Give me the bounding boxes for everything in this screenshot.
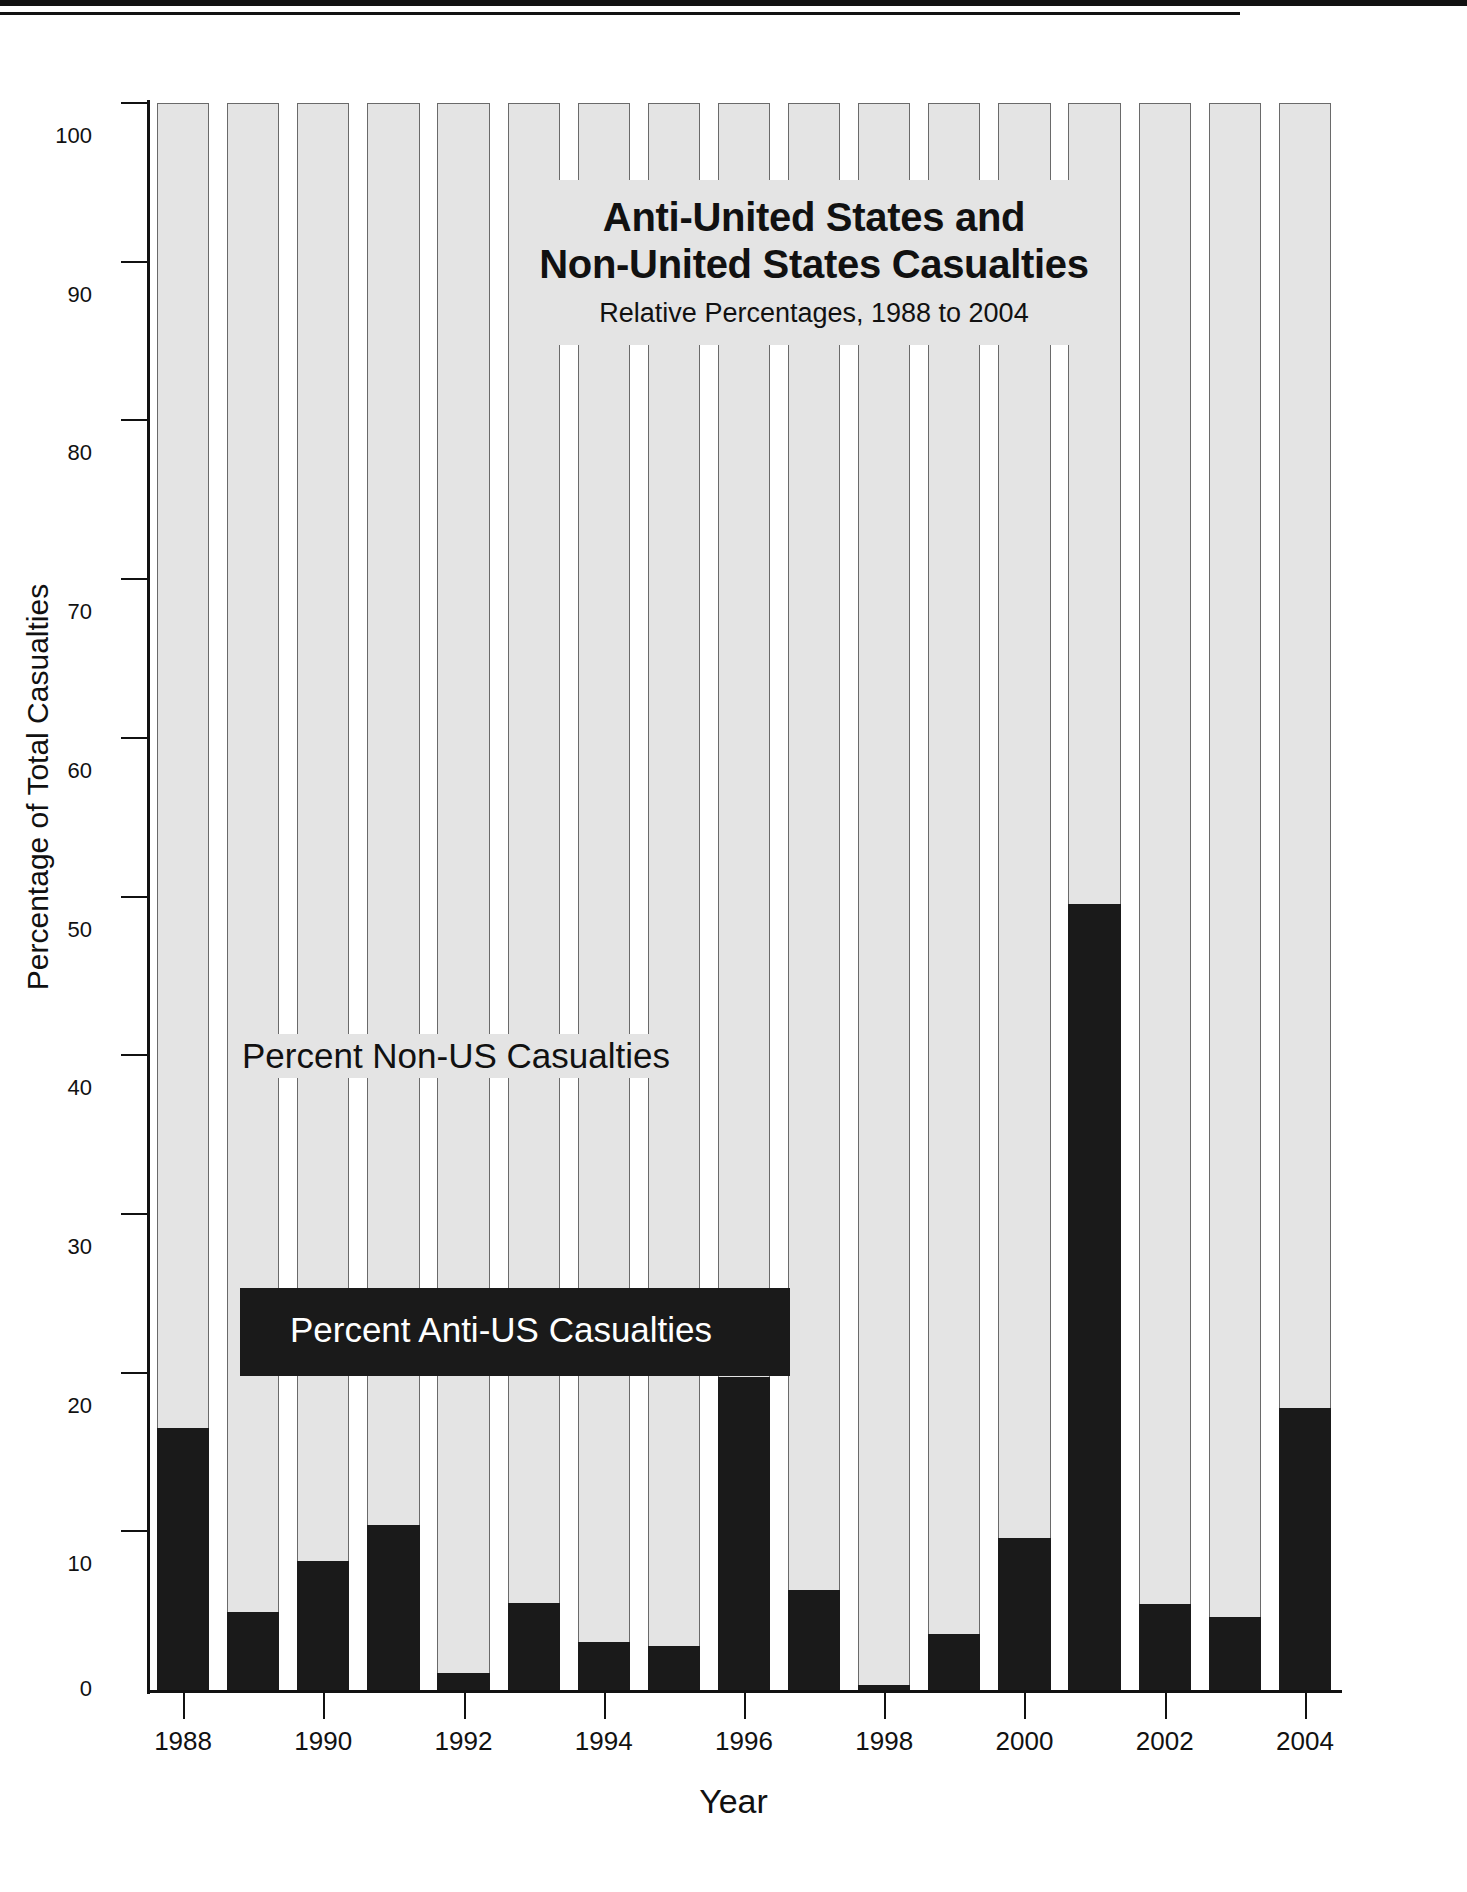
chart-title-line1: Anti-United States and	[520, 194, 1108, 241]
chart-title-line2: Non-United States Casualties	[520, 241, 1108, 288]
x-tick	[884, 1693, 886, 1719]
bar-segment-non-us	[367, 103, 419, 1690]
bar-segment-anti-us	[1139, 1604, 1191, 1690]
bar-segment-anti-us	[1068, 904, 1120, 1690]
bar-segment-non-us	[437, 103, 489, 1690]
chart-title: Anti-United States and Non-United States…	[520, 180, 1108, 288]
bar-segment-anti-us	[648, 1646, 700, 1690]
bar-column	[1139, 103, 1191, 1690]
bar-column	[297, 103, 349, 1690]
x-tick-label: 1996	[684, 1726, 804, 1757]
x-tick-label: 2002	[1105, 1726, 1225, 1757]
y-tick-label: 90	[22, 282, 92, 308]
y-tick-label: 10	[22, 1551, 92, 1577]
bar-segment-anti-us	[157, 1428, 209, 1690]
bar-segment-anti-us	[508, 1603, 560, 1690]
x-tick-label: 1994	[544, 1726, 664, 1757]
x-tick	[183, 1693, 185, 1719]
bar-segment-anti-us	[437, 1673, 489, 1690]
x-tick	[1024, 1693, 1026, 1719]
legend-label-anti-us: Percent Anti-US Casualties	[226, 1310, 776, 1350]
x-tick-label: 1998	[824, 1726, 944, 1757]
x-tick	[1165, 1693, 1167, 1719]
bar-column	[227, 103, 279, 1690]
chart-title-box: Anti-United States and Non-United States…	[520, 180, 1108, 345]
y-tick	[121, 1054, 147, 1056]
bar-segment-anti-us	[227, 1612, 279, 1690]
y-tick	[121, 1213, 147, 1215]
y-tick-label: 0	[22, 1676, 92, 1702]
x-tick	[323, 1693, 325, 1719]
x-axis-title: Year	[0, 1782, 1467, 1821]
x-tick-label: 2004	[1245, 1726, 1365, 1757]
bar-segment-anti-us	[718, 1377, 770, 1690]
bar-segment-anti-us	[1209, 1617, 1261, 1690]
y-tick	[121, 102, 147, 104]
bar-segment-non-us	[227, 103, 279, 1690]
chart-subtitle: Relative Percentages, 1988 to 2004	[520, 288, 1108, 329]
bar-segment-anti-us	[367, 1525, 419, 1690]
x-tick	[744, 1693, 746, 1719]
y-tick	[121, 737, 147, 739]
x-tick	[604, 1693, 606, 1719]
bar-column	[1279, 103, 1331, 1690]
bar-column	[1209, 103, 1261, 1690]
y-tick-label: 20	[22, 1393, 92, 1419]
x-tick	[1305, 1693, 1307, 1719]
bar-segment-non-us	[1209, 103, 1261, 1690]
x-tick-label: 1990	[263, 1726, 383, 1757]
bar-segment-anti-us	[928, 1634, 980, 1690]
x-tick-label: 1992	[404, 1726, 524, 1757]
bar-column	[157, 103, 209, 1690]
bar-segment-anti-us	[788, 1590, 840, 1690]
stacked-bar-chart: 0102030405060708090100 19881990199219941…	[0, 0, 1467, 1892]
bar-segment-non-us	[1139, 103, 1191, 1690]
legend-label-anti-us-box: Percent Anti-US Casualties	[240, 1288, 790, 1376]
x-tick-label: 1988	[123, 1726, 243, 1757]
bar-segment-anti-us	[578, 1642, 630, 1690]
x-tick-label: 2000	[964, 1726, 1084, 1757]
y-tick	[121, 1372, 147, 1374]
y-tick	[121, 896, 147, 898]
y-tick	[121, 578, 147, 580]
x-tick	[464, 1693, 466, 1719]
bar-segment-anti-us	[858, 1685, 910, 1690]
y-tick	[121, 419, 147, 421]
y-tick-label: 100	[22, 123, 92, 149]
bar-segment-non-us	[297, 103, 349, 1690]
bar-segment-anti-us	[1279, 1408, 1331, 1690]
y-tick	[121, 261, 147, 263]
bar-segment-anti-us	[998, 1538, 1050, 1690]
legend-label-non-us: Percent Non-US Casualties	[238, 1034, 674, 1078]
bar-column	[367, 103, 419, 1690]
y-tick	[121, 1530, 147, 1532]
y-axis-title: Percentage of Total Casualties	[21, 407, 55, 1167]
bar-column	[437, 103, 489, 1690]
y-tick-label: 30	[22, 1234, 92, 1260]
bar-segment-anti-us	[297, 1561, 349, 1690]
